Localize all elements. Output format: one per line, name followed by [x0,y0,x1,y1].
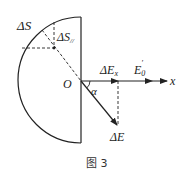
delta-s-parallel-label: ΔS// [56,30,75,45]
e0-prime-label: E0′ [133,59,145,78]
delta-s-label: ΔS [16,18,32,33]
projection-point [53,47,56,50]
x-axis-label: x [169,74,176,88]
delta-e-vector [81,81,117,125]
figure-caption: 图 3 [86,157,108,170]
delta-e-label: ΔE [109,130,125,144]
physics-diagram: ΔS ΔS// O α ΔEx E0′ x ΔE 图 3 [0,0,183,176]
alpha-label: α [91,85,97,97]
origin-label: O [63,77,72,91]
delta-ex-label: ΔEx [99,63,118,78]
alpha-arc [87,81,90,88]
e0-arrowhead [145,78,153,84]
